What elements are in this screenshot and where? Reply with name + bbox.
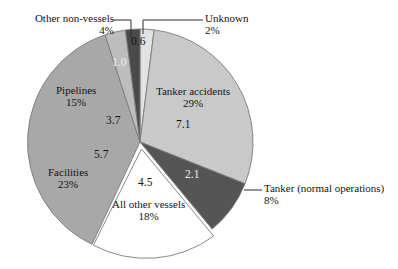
slice-label-unknown-name: Unknown <box>205 12 248 24</box>
slice-label-other-non-vessels-name: Other non-vessels <box>10 12 114 24</box>
slice-value-tanker-accidents: 7.1 <box>176 118 190 131</box>
slice-label-other-non-vessels-percent: 4% <box>10 24 114 36</box>
slice-label-all-other-vessels-name: All other vessels <box>112 198 185 210</box>
pie-chart: Other non-vessels 4% Unknown 2% Tanker (… <box>0 0 398 269</box>
slice-value-pipelines: 3.7 <box>106 114 120 127</box>
slice-label-tanker-normal-operations-percent: 8% <box>264 194 384 206</box>
slice-label-pipelines-name: Pipelines <box>56 84 96 96</box>
slice-value-unknown: 0.6 <box>131 35 145 48</box>
slice-label-tanker-accidents: Tanker accidents 29% <box>156 85 230 110</box>
slice-label-pipelines-percent: 15% <box>56 96 96 108</box>
slice-label-tanker-normal-operations-name: Tanker (normal operations) <box>264 182 384 194</box>
slice-label-unknown: Unknown 2% <box>205 12 248 37</box>
slice-value-other-non-vessels: 1.0 <box>112 56 126 69</box>
slice-label-all-other-vessels-percent: 18% <box>112 210 185 222</box>
slice-label-tanker-accidents-name: Tanker accidents <box>156 85 230 97</box>
slice-value-tanker-normal-operations: 2.1 <box>185 168 199 181</box>
slice-label-facilities-percent: 23% <box>48 178 88 190</box>
slice-label-tanker-normal-operations: Tanker (normal operations) 8% <box>264 182 384 207</box>
slice-label-all-other-vessels: All other vessels 18% <box>112 198 185 223</box>
slice-label-other-non-vessels: Other non-vessels 4% <box>10 12 114 37</box>
slice-label-unknown-percent: 2% <box>205 24 248 36</box>
slice-value-all-other-vessels: 4.5 <box>138 176 152 189</box>
slice-label-pipelines: Pipelines 15% <box>56 84 96 109</box>
slice-label-facilities-name: Facilities <box>48 166 88 178</box>
slice-value-facilities: 5.7 <box>94 148 108 161</box>
pie-chart-graphic <box>0 0 398 269</box>
slice-label-tanker-accidents-percent: 29% <box>156 97 230 109</box>
slice-label-facilities: Facilities 23% <box>48 166 88 191</box>
